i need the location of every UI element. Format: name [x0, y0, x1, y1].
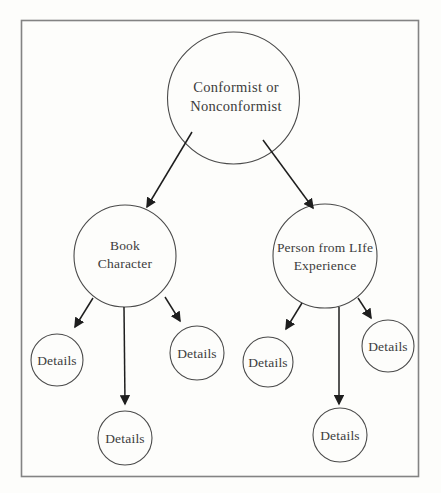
node-details-left-3: Details: [170, 326, 224, 380]
details-right-3-label: Details: [368, 339, 408, 354]
arrow-book-to-details-1: [75, 298, 93, 327]
person-from-life-label-line-2: Experience: [294, 258, 357, 273]
worksheet-page: Conformist or Nonconformist Book Charact…: [0, 0, 441, 493]
node-person-from-life-experience: Person from LIfe Experience: [273, 204, 377, 308]
details-left-2-label: Details: [105, 431, 145, 446]
arrow-root-to-book-character: [147, 132, 192, 207]
node-details-left-2: Details: [98, 411, 152, 465]
details-left-3-label: Details: [177, 346, 217, 361]
node-details-right-3: Details: [362, 320, 414, 372]
book-character-label-line-1: Book: [110, 238, 140, 253]
node-details-left-1: Details: [31, 334, 83, 386]
node-details-right-1: Details: [243, 337, 293, 387]
person-from-life-circle: [273, 204, 377, 308]
details-left-1-label: Details: [37, 353, 77, 368]
node-details-right-2: Details: [313, 408, 367, 462]
arrow-person-to-details-3: [358, 298, 371, 318]
diagram-canvas: Conformist or Nonconformist Book Charact…: [0, 0, 441, 493]
node-root: Conformist or Nonconformist: [168, 32, 300, 164]
root-label-line-2: Nonconformist: [190, 98, 282, 114]
root-label-line-1: Conformist or: [193, 79, 279, 95]
arrow-person-to-details-1: [286, 303, 302, 329]
details-right-1-label: Details: [248, 355, 288, 370]
book-character-label-line-2: Character: [98, 256, 153, 271]
arrow-book-to-details-2: [124, 307, 125, 404]
node-book-character: Book Character: [74, 205, 176, 307]
arrow-root-to-person-from-life: [263, 140, 313, 208]
details-right-2-label: Details: [320, 428, 360, 443]
person-from-life-label-line-1: Person from LIfe: [277, 240, 373, 255]
arrow-book-to-details-3: [165, 297, 180, 321]
